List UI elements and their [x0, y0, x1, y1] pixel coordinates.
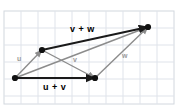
label-u-plus-v: u + v	[43, 83, 66, 92]
point-w-tip	[145, 24, 151, 30]
vector-addition-figure: v + w u + v u v w	[0, 0, 179, 109]
label-v: v	[73, 56, 77, 63]
point-origin	[12, 75, 18, 81]
label-u: u	[17, 55, 21, 62]
label-w: w	[122, 52, 127, 59]
vector-diagram-canvas	[0, 0, 179, 109]
point-u-tip	[39, 47, 45, 53]
point-v-tip	[92, 75, 98, 81]
label-v-plus-w: v + w	[70, 25, 95, 34]
